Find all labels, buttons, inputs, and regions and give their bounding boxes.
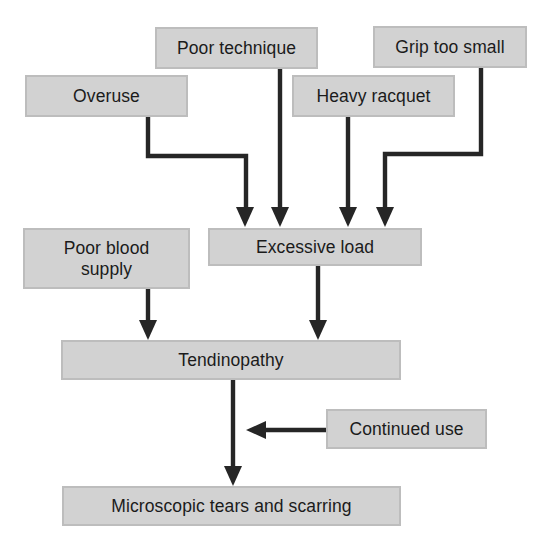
node-tendinopathy[interactable]: Tendinopathy <box>61 340 401 380</box>
node-continued-use[interactable]: Continued use <box>326 409 487 449</box>
edge-overuse-to-excessive-load <box>148 117 254 227</box>
node-microscopic-tears[interactable]: Microscopic tears and scarring <box>62 486 401 526</box>
arrowhead-icon <box>246 421 266 439</box>
arrowhead-icon <box>224 466 242 486</box>
node-grip-too-small[interactable]: Grip too small <box>373 26 527 68</box>
arrowhead-icon <box>339 207 357 227</box>
edge-tendinopathy-to-microscopic <box>224 380 242 486</box>
arrowhead-icon <box>376 207 394 227</box>
edge-continued-use-to-tendinopathy-arrow <box>246 421 326 439</box>
edge-excessive-load-to-tendinopathy <box>309 266 327 340</box>
edge-line <box>148 117 246 212</box>
node-excessive-load[interactable]: Excessive load <box>208 228 422 266</box>
node-heavy-racquet[interactable]: Heavy racquet <box>292 75 455 117</box>
arrowhead-icon <box>139 320 157 340</box>
node-overuse[interactable]: Overuse <box>25 75 188 117</box>
flowchart-diagram: Poor techniqueGrip too smallOveruseHeavy… <box>0 0 541 540</box>
node-poor-blood-supply[interactable]: Poor blood supply <box>23 228 190 289</box>
node-poor-technique[interactable]: Poor technique <box>155 27 318 69</box>
edge-poor-blood-to-tendinopathy <box>139 289 157 340</box>
arrowhead-icon <box>236 207 254 227</box>
edge-poor-technique-to-excessive-load <box>271 69 289 227</box>
edge-heavy-racquet-to-excessive-load <box>339 117 357 227</box>
arrowhead-icon <box>309 320 327 340</box>
arrowhead-icon <box>271 207 289 227</box>
